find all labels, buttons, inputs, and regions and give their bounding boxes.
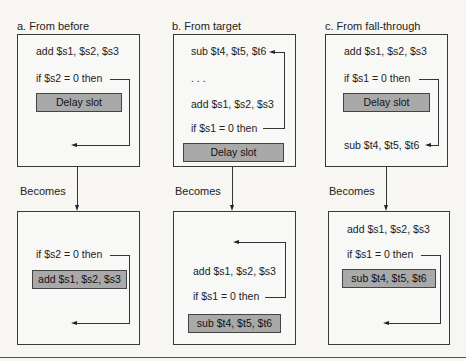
- bottom-rule: [0, 357, 466, 358]
- ellipsis: . . .: [191, 72, 206, 84]
- code-line: add $s1, $s2, $s3: [347, 223, 430, 235]
- branch-line: if $s1 = 0 then: [344, 72, 410, 84]
- branch-line: if $s2 = 0 then: [36, 72, 102, 84]
- code-line: add $s1, $s2, $s3: [193, 265, 276, 277]
- branch-arrow-line: [110, 79, 130, 80]
- panel-a-title: a. From before: [17, 20, 89, 32]
- filled-delay-slot: sub $t4, $t5, $t6: [188, 314, 281, 333]
- arrow-head-icon: [71, 321, 77, 325]
- fall-through-line: sub $t4, $t5, $t6: [344, 139, 419, 151]
- code-line: add $s1, $s2, $s3: [344, 45, 427, 57]
- delay-slot: Delay slot: [36, 93, 122, 112]
- becomes-connector: [232, 167, 233, 205]
- branch-line: if $s2 = 0 then: [36, 248, 102, 260]
- filled-delay-slot: sub $t4, $t5, $t6: [342, 269, 436, 288]
- arrow-head-icon: [269, 50, 275, 54]
- becomes-label: Becomes: [20, 185, 66, 197]
- target-line: sub $t4, $t5, $t6: [191, 45, 266, 57]
- delay-slot: Delay slot: [343, 93, 430, 112]
- arrow-head-icon: [71, 143, 77, 147]
- delay-slot: Delay slot: [183, 143, 284, 162]
- becomes-label: Becomes: [175, 185, 221, 197]
- code-line: add $s1, $s2, $s3: [191, 98, 274, 110]
- panel-c-title: c. From fall-through: [325, 20, 420, 32]
- panel-b-title: b. From target: [172, 20, 241, 32]
- branch-line: if $s1 = 0 then: [193, 290, 259, 302]
- arrow-head-icon: [425, 143, 431, 147]
- filled-delay-slot: add $s1, $s2, $s3: [32, 270, 127, 289]
- arrow-head-icon: [383, 321, 389, 325]
- becomes-connector: [77, 167, 78, 205]
- becomes-connector: [386, 167, 387, 205]
- becomes-label: Becomes: [329, 185, 375, 197]
- branch-line: if $s1 = 0 then: [191, 122, 257, 134]
- code-line: add $s1, $s2, $s3: [36, 45, 119, 57]
- branch-line: if $s1 = 0 then: [347, 248, 413, 260]
- arrow-head-icon: [233, 240, 239, 244]
